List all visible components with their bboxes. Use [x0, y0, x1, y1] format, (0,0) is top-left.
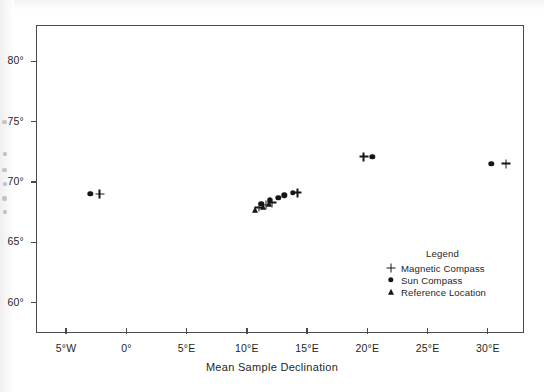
x-axis-tick-label: 0° — [96, 342, 156, 354]
plus-marker — [387, 264, 396, 273]
x-axis-tick-label: 30°E — [458, 342, 518, 354]
y-axis-tick-label: 60° — [0, 296, 24, 308]
legend-item-label: Magnetic Compass — [401, 263, 485, 274]
legend-swatch-circle — [385, 274, 397, 286]
x-axis-tick — [126, 328, 127, 334]
data-point-plus — [359, 152, 368, 161]
x-axis-title: Mean Sample Declination — [0, 361, 544, 373]
legend-title: Legend — [399, 248, 486, 259]
data-point-plus — [501, 159, 510, 168]
legend-swatch-triangle — [385, 286, 397, 298]
x-axis-tick — [186, 328, 187, 334]
legend-entries: Magnetic CompassSun CompassReference Loc… — [385, 262, 486, 298]
x-axis-tick — [367, 328, 368, 334]
y-axis-tick — [31, 242, 37, 243]
scan-artifact-speck — [2, 196, 7, 201]
scan-edge-shadow-top — [0, 0, 544, 10]
data-point-triangle — [252, 206, 258, 212]
legend-item-label: Sun Compass — [401, 275, 462, 286]
legend-item-plus: Magnetic Compass — [385, 262, 486, 274]
y-axis-tick-label: 65° — [0, 235, 24, 247]
y-axis-tick — [31, 181, 37, 182]
x-axis-tick-label: 20°E — [337, 342, 397, 354]
legend-item-circle: Sun Compass — [385, 274, 486, 286]
triangle-marker — [388, 289, 394, 295]
chart-legend: Legend Magnetic CompassSun CompassRefere… — [385, 248, 486, 298]
y-axis-tick — [31, 302, 37, 303]
legend-swatch-plus — [385, 262, 397, 274]
x-axis-tick — [65, 328, 66, 334]
scan-artifact-speck — [3, 210, 7, 214]
x-axis-tick — [246, 328, 247, 334]
legend-item-triangle: Reference Location — [385, 286, 486, 298]
circle-marker — [388, 277, 393, 282]
x-axis-tick-label: 25°E — [398, 342, 458, 354]
y-axis-tick — [31, 121, 37, 122]
x-axis-tick — [487, 328, 488, 334]
x-axis-tick-label: 5°E — [157, 342, 217, 354]
x-axis-tick-label: 5°W — [36, 342, 96, 354]
y-axis-tick — [31, 61, 37, 62]
data-point-plus — [95, 190, 104, 199]
x-axis-tick-label: 10°E — [217, 342, 277, 354]
data-point-triangle — [266, 200, 272, 206]
x-axis-tick — [306, 328, 307, 334]
y-axis-tick-label: 75° — [0, 115, 24, 127]
x-axis-tick — [427, 328, 428, 334]
y-axis-tick-label: 80° — [0, 54, 24, 66]
x-axis-tick-label: 15°E — [277, 342, 337, 354]
scan-artifact-speck — [2, 168, 7, 172]
legend-item-label: Reference Location — [401, 287, 486, 298]
scatter-plot-figure: 60°65°70°75°80°5°W0°5°E10°E15°E20°E25°E3… — [0, 0, 544, 392]
y-axis-tick-label: 70° — [0, 175, 24, 187]
scan-artifact-speck — [3, 152, 7, 156]
